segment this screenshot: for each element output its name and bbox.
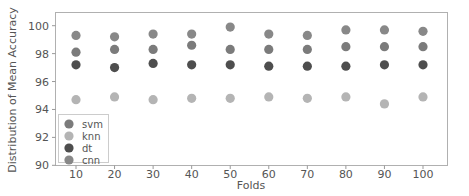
- y-tick-label: 90: [35, 159, 49, 172]
- data-point: [341, 42, 350, 51]
- x-tick-label: 20: [108, 168, 122, 181]
- y-tick-label: 100: [28, 20, 49, 33]
- x-tick-label: 90: [377, 168, 391, 181]
- y-tick-label: 98: [35, 48, 49, 61]
- data-point: [187, 29, 196, 38]
- data-point: [226, 60, 235, 69]
- data-point: [110, 32, 119, 41]
- data-point: [226, 22, 235, 31]
- scatter-chart: 9092949698100 102030405060708090100 Fold…: [0, 0, 469, 196]
- data-point: [264, 92, 273, 101]
- legend-marker-knn: [64, 131, 73, 140]
- data-point: [187, 94, 196, 103]
- x-axis-label: Folds: [237, 179, 266, 192]
- x-tick-label: 30: [146, 168, 160, 181]
- data-point: [71, 31, 80, 40]
- data-point: [110, 45, 119, 54]
- legend-marker-dt: [64, 143, 73, 152]
- data-point: [380, 60, 389, 69]
- data-point: [110, 63, 119, 72]
- data-point: [341, 92, 350, 101]
- data-point: [226, 94, 235, 103]
- data-point: [149, 95, 158, 104]
- data-point: [341, 62, 350, 71]
- data-point: [418, 60, 427, 69]
- data-point: [303, 94, 312, 103]
- data-point: [380, 42, 389, 51]
- legend-label-cnn: cnn: [82, 155, 100, 166]
- data-point: [71, 48, 80, 57]
- data-point: [303, 62, 312, 71]
- legend-marker-cnn: [64, 155, 73, 164]
- data-point: [418, 92, 427, 101]
- data-point: [264, 62, 273, 71]
- legend: svmknndtcnn: [59, 115, 109, 166]
- x-tick-label: 10: [69, 168, 83, 181]
- data-point: [71, 60, 80, 69]
- x-tick-label: 40: [185, 168, 199, 181]
- data-point: [226, 45, 235, 54]
- data-point: [264, 29, 273, 38]
- data-point: [418, 27, 427, 36]
- data-point: [149, 59, 158, 68]
- x-tick-label: 70: [300, 168, 314, 181]
- data-point: [264, 45, 273, 54]
- y-tick-label: 94: [35, 103, 49, 116]
- data-point: [418, 42, 427, 51]
- data-point: [303, 45, 312, 54]
- data-point: [341, 25, 350, 34]
- data-point: [303, 31, 312, 40]
- data-point: [149, 45, 158, 54]
- data-point: [71, 95, 80, 104]
- legend-label-knn: knn: [82, 131, 100, 142]
- legend-marker-svm: [64, 119, 73, 128]
- y-tick-label: 96: [35, 76, 49, 89]
- x-tick-label: 100: [413, 168, 434, 181]
- x-tick-label: 50: [223, 168, 237, 181]
- data-point: [110, 92, 119, 101]
- data-point: [187, 41, 196, 50]
- data-point: [380, 99, 389, 108]
- legend-label-dt: dt: [82, 143, 92, 154]
- data-point: [149, 29, 158, 38]
- legend-label-svm: svm: [82, 119, 103, 130]
- data-point: [187, 60, 196, 69]
- y-axis-label: Distribution of Mean Accuracy: [6, 7, 19, 173]
- y-axis-ticks: 9092949698100: [28, 20, 56, 173]
- data-point: [380, 25, 389, 34]
- y-tick-label: 92: [35, 131, 49, 144]
- x-tick-label: 80: [339, 168, 353, 181]
